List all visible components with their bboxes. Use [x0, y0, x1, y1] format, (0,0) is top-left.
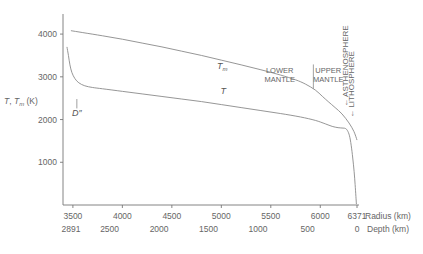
- x-tick-label-radius: 5500: [261, 211, 280, 221]
- curve-label-Tm: Tm: [217, 61, 228, 72]
- region-label-upper-mantle-line2: MANTLE: [313, 75, 343, 84]
- x-tick-label-radius: 6371: [348, 211, 367, 221]
- curve-Tm: [71, 31, 357, 140]
- y-tick-label: 3000: [38, 72, 57, 82]
- x-tick-label-depth: 2500: [100, 224, 119, 234]
- chart-canvas: 1000200030004000T, Tm (K)350040004500500…: [0, 0, 423, 254]
- y-tick-label: 2000: [38, 115, 57, 125]
- dprime-label: D″: [72, 108, 82, 118]
- x-tick-label-depth: 2000: [150, 224, 169, 234]
- x-tick-label-radius: 4000: [113, 211, 132, 221]
- y-tick-label: 4000: [38, 29, 57, 39]
- x-tick-label-radius: 4500: [162, 211, 181, 221]
- x-tick-label-depth: 0: [355, 224, 360, 234]
- x-tick-label-radius: 6000: [311, 211, 330, 221]
- x-tick-label-depth: 1500: [199, 224, 218, 234]
- y-axis-title: T, Tm (K): [4, 96, 38, 107]
- x-tick-label-radius: 5000: [212, 211, 231, 221]
- rot-label-lithosphere: ← LITHOSPHERE: [347, 51, 356, 118]
- curve-label-T: T: [221, 86, 228, 96]
- region-label-lower-mantle-line2: MANTLE: [265, 75, 295, 84]
- x-axis-title-depth: Depth (km): [367, 224, 409, 234]
- temperature-depth-chart: 1000200030004000T, Tm (K)350040004500500…: [0, 0, 423, 254]
- y-tick-label: 1000: [38, 157, 57, 167]
- x-axis-title-radius: Radius (km): [365, 211, 411, 221]
- x-tick-label-depth: 1000: [249, 224, 268, 234]
- x-tick-label-radius: 3500: [63, 211, 82, 221]
- region-label-upper-mantle: UPPER: [315, 66, 341, 75]
- x-tick-label-depth: 2891: [61, 224, 80, 234]
- region-label-lower-mantle: LOWER: [266, 66, 294, 75]
- x-tick-label-depth: 500: [300, 224, 314, 234]
